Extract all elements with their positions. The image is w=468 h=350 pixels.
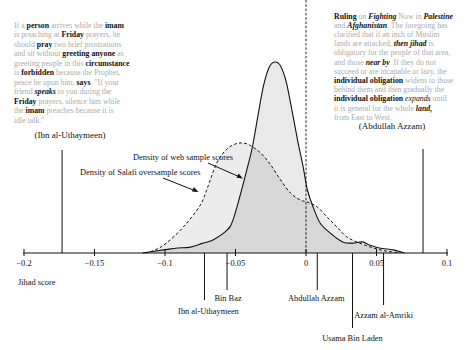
quote-highlight: greeting anyone (62, 49, 115, 58)
quote-highlight: person (27, 21, 50, 30)
quote-highlight: Palestine (424, 12, 453, 21)
quote-text: it is general for the whole (334, 104, 416, 113)
quote-line: is forbidden because the Prophet, (14, 68, 120, 77)
quote-text: is (426, 39, 433, 48)
quote-text: because the Prophet, (54, 68, 120, 77)
quote-highlight: expands (405, 94, 431, 103)
quote-text: should (14, 40, 37, 49)
quote-highlight: near by (366, 58, 390, 67)
quote-text: greeting people in this (14, 59, 85, 68)
quote-line: clarified that if an inch of Muslim (334, 30, 440, 39)
quote-highlight: imam (105, 21, 124, 30)
quote-highlight: individual obligation (334, 94, 403, 103)
quote-text: obligatory for the people of that area, (334, 48, 450, 57)
quote-text: on (357, 12, 369, 21)
quote-line: it is general for the whole land, (334, 104, 432, 113)
marker-label-bin-baz: Bin Baz (214, 294, 241, 304)
quote-text: prayers, silence him while (37, 97, 121, 106)
quote-line: individual obligation widens to those (334, 76, 454, 85)
arrow-salafi-annotation (163, 178, 199, 192)
x-tick-label: −0.2 (16, 259, 31, 269)
quote-text: and (334, 21, 347, 30)
quote-line: idle talk." (14, 116, 44, 125)
quote-highlight: speaks (35, 87, 56, 96)
quote-text: idle talk." (14, 116, 44, 125)
quote-text: and those (334, 58, 366, 67)
quote-highlight: circumstance (85, 59, 129, 68)
marker-label-azzam-al-amriki: Azzam al-Amriki (354, 311, 413, 321)
quote-text: until (431, 94, 447, 103)
quote-highlight: then jihad (394, 39, 427, 48)
quote-text: the (14, 106, 25, 115)
quote-text: arrives while the (49, 21, 105, 30)
quote-line: the imam preaches because it is (14, 106, 114, 115)
quote-text: clarified that if an inch of Muslim (334, 30, 440, 39)
annotation-salafi-oversample: Density of Salafi oversample scores (80, 168, 200, 178)
marker-label-abdullah-azzam: Abdullah Azzam (288, 294, 345, 304)
quote-text: If a (14, 21, 27, 30)
quote-text: two brief prostrations (52, 40, 121, 49)
quote-text: peace be upon him, (14, 78, 77, 87)
quote-text: to you during the (56, 87, 111, 96)
quote-line: and Afghanistan. The foregoing has (334, 21, 448, 30)
x-tick-label: 0.05 (369, 259, 384, 269)
quote-text: and sit without (14, 49, 62, 58)
x-tick-label: −0.15 (85, 259, 104, 269)
marker-label-usama-bin-laden: Usama Bin Laden (322, 334, 382, 344)
quote-text: . "If your (90, 78, 119, 87)
quote-line: should pray two brief prostrations (14, 40, 121, 49)
quote-highlight: pray (37, 40, 53, 49)
x-tick-label: 0 (304, 259, 308, 269)
quote-text: lands are attacked, (334, 39, 394, 48)
quote-line: and those near by. If they do not (334, 58, 436, 67)
quote-text: behind them and then gradually the (334, 85, 444, 94)
quote-text: is preaching at (14, 30, 61, 39)
quote-line: is preaching at Friday prayers, he (14, 30, 120, 39)
marker-label-ibn-al-uthaymeen: Ibn al-Uthaymeen (178, 307, 239, 317)
quote-highlight: forbidden (21, 68, 54, 77)
quote-text: prayers, he (84, 30, 120, 39)
quote-line: greeting people in this circumstance (14, 59, 130, 68)
quote-text: . The foregoing has (387, 21, 447, 30)
quote-text: widens to those (403, 76, 453, 85)
quote-text: friend (14, 87, 35, 96)
quote-line: behind them and then gradually the (334, 85, 444, 94)
quote-text: . If they do not (390, 58, 436, 67)
x-tick-label: −0.05 (226, 259, 245, 269)
quote-line: friend speaks to you during the (14, 87, 111, 96)
quote-line: and sit without greeting anyone as (14, 49, 124, 58)
x-axis-label: Jihad score (18, 278, 55, 288)
quote-text: as (115, 49, 123, 58)
quote-highlight: imam (25, 106, 44, 115)
quote-highlight: says (77, 78, 91, 87)
quote-highlight: Friday (14, 97, 37, 106)
quote-text: succeed or are incapable or lazy, the (334, 67, 447, 76)
quote-line: Friday prayers, silence him while (14, 97, 120, 106)
quote-text: Now in (396, 12, 423, 21)
quote-highlight: Ruling (334, 12, 357, 21)
quote-highlight: Fighting (368, 12, 396, 21)
quote-line: If a person arrives while the imam (14, 21, 124, 30)
quote-line: individual obligation expands until (334, 94, 447, 103)
quote-line: obligatory for the people of that area, (334, 48, 450, 57)
quote-highlight: individual obligation (334, 76, 403, 85)
quote-line: lands are attacked, then jihad is (334, 39, 434, 48)
quote-highlight: Afghanistan (347, 21, 387, 30)
quote-highlight: Friday (61, 30, 84, 39)
quote-attribution-abdullah-azzam: (Abdullah Azzam) (359, 121, 426, 131)
quote-line: Ruling on Fighting Now in Palestine (334, 12, 453, 21)
x-tick-label: 0.1 (442, 259, 452, 269)
quote-line: succeed or are incapable or lazy, the (334, 67, 447, 76)
annotation-web-sample: Density of web sample scores (133, 153, 233, 163)
quote-text: preaches because it is (45, 106, 114, 115)
x-tick-label: −0.1 (157, 259, 172, 269)
quote-highlight: land, (416, 104, 432, 113)
quote-attribution-ibn-al-uthaymeen: (Ibn al-Uthaymeen) (34, 130, 105, 140)
quote-line: peace be upon him, says. "If your (14, 78, 119, 87)
